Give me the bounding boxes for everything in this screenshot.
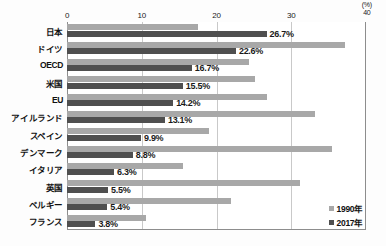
chart-legend: 1990年 2017年 [329,202,363,228]
category-label: スペイン [0,126,63,143]
bar-2017 [67,152,133,158]
chart-row: スペイン9.9% [0,126,386,143]
category-label: フランス [0,213,63,230]
x-tick-label: 0 [65,11,69,20]
bar-2017 [67,169,114,175]
chart-rows: 日本26.7%ドイツ22.6%OECD16.7%米国15.5%EU14.2%アイ… [0,22,386,230]
chart-row: アイルランド13.1% [0,109,386,126]
bar-value-label: 13.1% [168,115,192,125]
bar-2017 [67,48,236,54]
category-label: OECD [0,57,63,74]
bar-2017 [67,31,267,37]
legend-item-1990: 1990年 [329,202,363,214]
chart-row: ドイツ22.6% [0,39,386,56]
bar-value-label: 26.7% [270,29,294,39]
category-label: アイルランド [0,109,63,126]
chart-row: デンマーク8.8% [0,143,386,160]
bar-2017 [67,135,141,141]
bar-2017 [67,100,173,106]
category-label: EU [0,91,63,108]
bar-1990 [67,128,209,134]
bar-2017 [67,221,95,227]
bar-1990 [67,146,332,152]
chart-row: EU14.2% [0,91,386,108]
bar-value-label: 9.9% [144,133,163,143]
bar-1990 [67,59,249,65]
bar-value-label: 16.7% [195,63,219,73]
bar-1990 [67,94,267,100]
axis-unit-label: (%) 40 [362,1,372,17]
chart-row: OECD16.7% [0,57,386,74]
legend-item-2017: 2017年 [329,216,363,228]
x-tick-label: 30 [287,11,296,20]
bar-value-label: 5.4% [110,202,129,212]
category-label: ベルギー [0,195,63,212]
legend-label-1990: 1990年 [337,202,363,214]
category-label: デンマーク [0,143,63,160]
bar-2017 [67,117,165,123]
bar-value-label: 22.6% [239,46,263,56]
chart-row: 日本26.7% [0,22,386,39]
bar-1990 [67,76,255,82]
category-label: ドイツ [0,39,63,56]
x-tick-label: 20 [212,11,221,20]
bar-value-label: 8.8% [136,150,155,160]
bar-value-label: 6.3% [117,167,136,177]
category-label: 米国 [0,74,63,91]
bar-1990 [67,198,231,204]
bar-1990 [67,42,345,48]
category-label: イタリア [0,161,63,178]
category-label: 日本 [0,22,63,39]
chart-row: イタリア6.3% [0,161,386,178]
legend-label-2017: 2017年 [337,216,363,228]
category-label: 英国 [0,178,63,195]
bar-value-label: 3.8% [98,219,117,229]
legend-swatch-2017 [329,220,334,225]
bar-2017 [67,187,108,193]
unit-percent: (%) [362,1,372,9]
legend-swatch-1990 [329,206,334,211]
bar-2017 [67,204,107,210]
bar-value-label: 5.5% [111,185,130,195]
chart-row: 米国15.5% [0,74,386,91]
x-tick-label: 10 [138,11,147,20]
bar-2017 [67,65,192,71]
bar-1990 [67,180,300,186]
chart-row: 英国5.5% [0,178,386,195]
axis-max-label: 40 [362,9,372,17]
bar-1990 [67,24,198,30]
bar-value-label: 14.2% [176,98,200,108]
bar-value-label: 15.5% [186,81,210,91]
bar-2017 [67,83,183,89]
bar-chart: (%) 40 0102030 日本26.7%ドイツ22.6%OECD16.7%米… [0,0,386,246]
